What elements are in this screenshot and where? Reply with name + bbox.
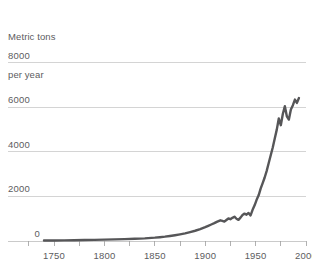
x-axis-tick-label: 1850 (144, 250, 166, 261)
y-axis-tick-label: 4000 (8, 139, 30, 150)
gridlines-group (8, 63, 306, 241)
x-axis-tick-label: 1750 (43, 250, 65, 261)
chart-container: Metric tons per year 80006000400020000 1… (0, 0, 312, 277)
x-axis-tickmarks (29, 241, 306, 246)
y-axis-tick-labels: 80006000400020000 (8, 50, 40, 239)
data-line (44, 98, 299, 241)
x-axis-tick-labels: 175018001850190019502000 (43, 250, 312, 261)
y-axis-tick-label: 8000 (8, 50, 30, 61)
x-axis-tick-label: 1900 (194, 250, 216, 261)
y-axis-tick-label: 0 (35, 228, 40, 239)
x-axis-tick-label: 2000 (295, 250, 312, 261)
y-axis-tick-label: 2000 (8, 183, 30, 194)
x-axis-tick-label: 1800 (93, 250, 115, 261)
data-series-group (44, 98, 299, 241)
y-axis-tick-label: 6000 (8, 94, 30, 105)
x-axis-tick-label: 1950 (245, 250, 267, 261)
chart-plot-area: 80006000400020000 1750180018501900195020… (0, 0, 312, 277)
